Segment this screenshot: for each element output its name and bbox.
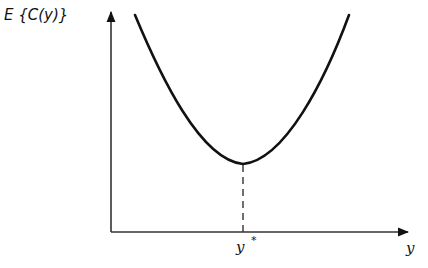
- minimum-label-superscript: *: [251, 234, 257, 247]
- expected-cost-curve: [135, 15, 349, 164]
- y-axis-label: E {C(y)}: [4, 6, 68, 24]
- expected-cost-chart: E {C(y)} y y *: [0, 0, 428, 268]
- x-axis-label: y: [405, 239, 415, 257]
- minimum-label: y: [235, 238, 245, 256]
